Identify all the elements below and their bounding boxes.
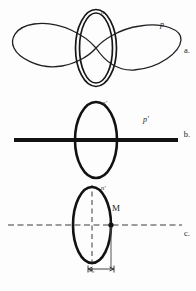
panel-a: n p a. [0,0,196,97]
label-p-prime: p' [143,116,149,124]
label-p: p [160,21,164,29]
panel-b-drawing [0,97,196,185]
label-n-prime: n' [101,185,106,192]
panel-marker-c: c. [184,229,190,238]
panel-b: n' p' b. [0,97,196,185]
label-n: n [101,9,104,16]
label-point-m: M [112,204,120,213]
point-m-marker [108,222,113,227]
lemniscate-curve [13,23,181,70]
panel-a-drawing [0,0,196,97]
panel-c-drawing [0,185,196,291]
label-n-prime: n' [102,100,107,107]
label-dimension-x0: x₀ [89,267,95,274]
figure-root: n p a. n' p' b. [0,0,196,291]
panel-marker-a: a. [184,46,190,55]
panel-c: n' M x₀ c. [0,185,196,291]
panel-marker-b: b. [184,130,190,139]
